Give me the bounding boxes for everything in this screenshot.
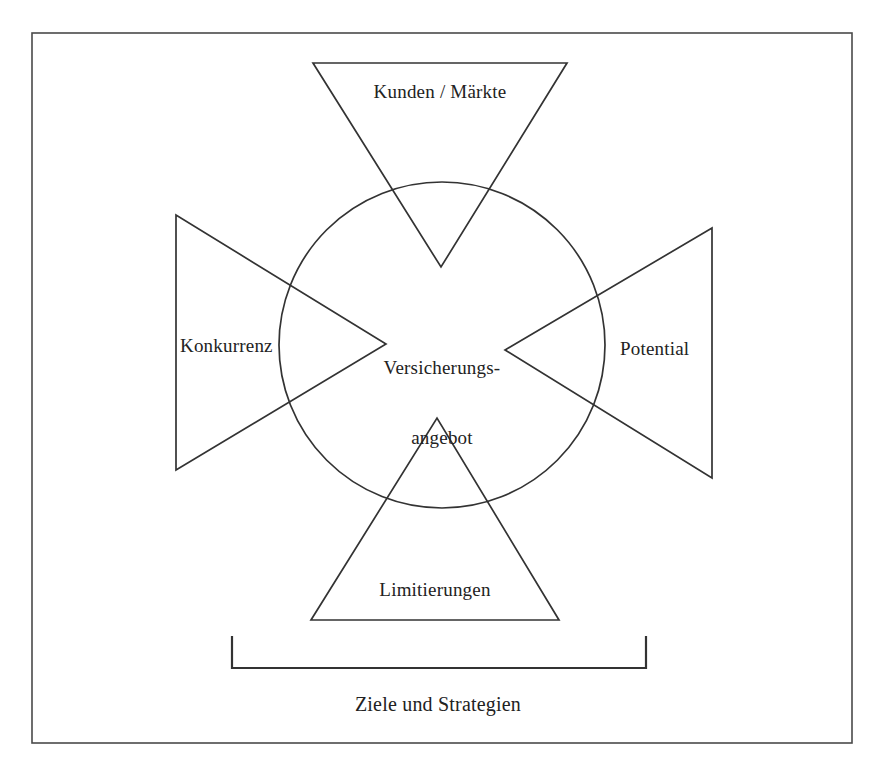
wedge-right-label: Potential <box>600 337 740 360</box>
center-label-line1: Versicherungs- <box>342 356 542 379</box>
summary-bracket <box>232 636 646 668</box>
diagram-canvas: Kunden / Märkte Konkurrenz Potential Lim… <box>0 0 888 781</box>
wedge-top-label: Kunden / Märkte <box>313 80 567 103</box>
wedge-left-label: Konkurrenz <box>176 334 310 357</box>
wedge-bottom-label: Limitierungen <box>311 578 559 601</box>
center-label-line2: angebot <box>342 426 542 449</box>
center-label: Versicherungs- angebot <box>342 310 542 495</box>
bracket-caption: Ziele und Strategien <box>228 692 648 716</box>
